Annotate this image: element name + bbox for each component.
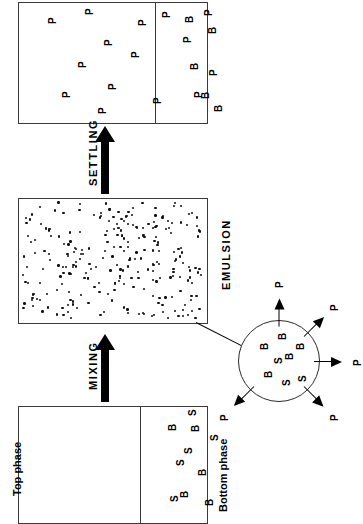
droplet-dot [75, 265, 77, 267]
droplet-dot [23, 255, 25, 257]
droplet-dot [54, 209, 56, 211]
species-glyph-p: P [108, 83, 118, 90]
droplet-dot [127, 265, 129, 267]
species-glyph-b: B [208, 27, 218, 34]
droplet-dot [191, 212, 193, 214]
droplet-dot [198, 268, 200, 270]
droplet-dot [134, 258, 136, 260]
droplet-dot [127, 241, 129, 243]
droplet-dot [188, 213, 190, 215]
droplet-dot [106, 241, 108, 243]
droplet-dot [113, 289, 115, 291]
droplet-dot [100, 215, 102, 217]
droplet-dot [173, 205, 175, 207]
droplet-dot [46, 293, 48, 295]
species-glyph-p: P [204, 9, 214, 16]
droplet-dot [126, 308, 128, 310]
droplet-dot [36, 298, 38, 300]
species-glyph-p: P [138, 19, 148, 26]
droplet-dot [168, 227, 170, 229]
species-glyph-b: B [185, 16, 195, 23]
droplet-dot [186, 224, 188, 226]
droplet-dot [62, 314, 64, 316]
droplet-dot [79, 231, 81, 233]
droplet-dot [179, 290, 181, 292]
droplet-dot [162, 311, 164, 313]
droplet-dot [127, 223, 129, 225]
top-phase-label: Top phase [12, 442, 23, 496]
droplet-dot [138, 313, 140, 315]
droplet-dot [182, 309, 184, 311]
droplet-dot [102, 257, 104, 259]
species-glyph-b: B [198, 469, 208, 476]
droplet-dot [182, 262, 184, 264]
bottom-phase-label: Bottom phase [218, 439, 229, 512]
droplet-dot [79, 258, 81, 260]
droplet-dot [69, 273, 71, 275]
species-glyph-b: B [168, 424, 178, 431]
droplet-dot [57, 264, 59, 266]
droplet-dot [68, 291, 70, 293]
species-glyph-p: P [162, 11, 172, 18]
droplet-dot [31, 213, 33, 215]
droplet-dot [47, 306, 49, 308]
mixing-label: MIXING [88, 341, 99, 390]
droplet-glyph-b: B [264, 371, 274, 378]
droplet-dot [152, 295, 154, 297]
droplet-dot [107, 293, 109, 295]
droplet-dot [167, 317, 169, 319]
species-glyph-p: P [183, 36, 193, 43]
flux-arrow-label-p: P [330, 304, 340, 311]
species-glyph-p: P [104, 39, 114, 46]
droplet-dot [184, 304, 186, 306]
droplet-dot [152, 279, 154, 281]
droplet-dot [81, 249, 83, 251]
droplet-dot [22, 274, 24, 276]
droplet-dot [172, 271, 174, 273]
droplet-dot [177, 248, 179, 250]
droplet-dot [194, 267, 196, 269]
droplet-dot [72, 300, 74, 302]
flux-arrow-icon [303, 386, 322, 405]
species-glyph-p: P [85, 8, 95, 15]
droplet-dot [88, 247, 90, 249]
droplet-dot [140, 257, 142, 259]
species-glyph-b: B [205, 499, 215, 506]
droplet-dot [83, 277, 85, 279]
droplet-dot [154, 207, 156, 209]
droplet-dot [25, 217, 27, 219]
droplet-dot [152, 249, 154, 251]
droplet-glyph-s: S [274, 357, 284, 364]
droplet-dot [116, 234, 118, 236]
droplet-dot [50, 235, 52, 237]
settled-vessel-phase-divider [155, 2, 156, 124]
droplet-dot [112, 216, 114, 218]
droplet-dot [187, 314, 189, 316]
droplet-dot [87, 277, 89, 279]
droplet-dot [188, 266, 190, 268]
droplet-dot [75, 261, 77, 263]
droplet-dot [131, 214, 133, 216]
droplet-dot [58, 235, 60, 237]
droplet-dot [179, 276, 181, 278]
droplet-dot [56, 313, 58, 315]
droplet-dot [41, 310, 43, 312]
droplet-dot [147, 268, 149, 270]
droplet-dot [109, 269, 111, 271]
droplet-dot [117, 211, 119, 213]
droplet-dot [137, 277, 139, 279]
droplet-dot [174, 310, 176, 312]
species-glyph-p: P [153, 97, 163, 104]
species-glyph-b: B [191, 425, 201, 432]
droplet-dot [123, 250, 125, 252]
droplet-dot [191, 310, 193, 312]
flux-arrow-icon [236, 386, 255, 405]
droplet-dot [158, 297, 160, 299]
species-glyph-p: P [62, 91, 72, 98]
droplet-dot [62, 266, 64, 268]
droplet-dot [198, 308, 200, 310]
emulsion-label: EMULSION [221, 219, 232, 290]
droplet-dot [196, 225, 198, 227]
droplet-dot [180, 221, 182, 223]
droplet-dot [67, 311, 69, 313]
